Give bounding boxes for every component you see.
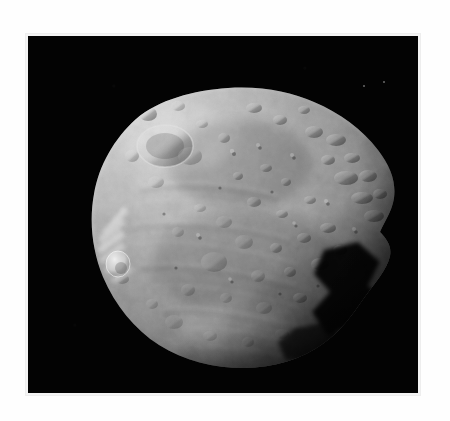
phobos-surface [28, 36, 418, 393]
phobos-body [28, 36, 418, 393]
phobos-rendering [28, 36, 418, 393]
image-page: Phobos Heavily cratered, irregular potat… [0, 0, 450, 421]
space-background-panel [28, 36, 418, 393]
